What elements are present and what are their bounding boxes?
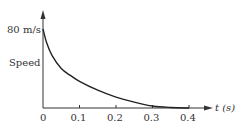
x-axis-arrow-icon — [204, 106, 213, 111]
y-axis-label: Speed — [9, 58, 41, 68]
x-tick-label: 0.3 — [144, 113, 160, 123]
y-value-label: 80 m/s — [7, 25, 41, 35]
x-axis-label: t (s) — [215, 103, 235, 113]
x-tick-label: 0.2 — [107, 113, 123, 123]
y-axis-arrow-icon — [41, 10, 46, 19]
x-tick-label: 0.4 — [180, 113, 196, 123]
x-tick-label: 0.1 — [71, 113, 87, 123]
x-tick-label: 0 — [40, 113, 46, 123]
speed-curve — [43, 29, 189, 108]
